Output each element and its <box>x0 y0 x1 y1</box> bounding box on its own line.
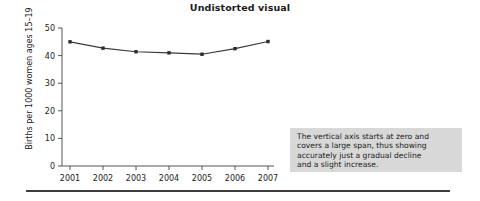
annotation-callout: The vertical axis starts at zero and cov… <box>290 128 462 172</box>
data-series-line <box>68 40 269 56</box>
y-tick-label: 20 <box>45 107 55 116</box>
data-point-marker <box>167 51 170 54</box>
x-tick-label: 2001 <box>60 174 80 183</box>
annotation-text: The vertical axis starts at zero and cov… <box>297 132 456 170</box>
y-tick-label: 50 <box>45 24 55 33</box>
bottom-divider <box>26 190 450 192</box>
data-point-marker <box>68 40 71 43</box>
x-axis: 2001200220032004200520062007 <box>60 166 278 183</box>
x-tick-label: 2005 <box>192 174 212 183</box>
data-point-marker <box>233 47 236 50</box>
y-tick-label: 30 <box>45 79 55 88</box>
y-tick-label: 10 <box>45 134 55 143</box>
data-point-marker <box>134 50 137 53</box>
x-tick-label: 2006 <box>225 174 245 183</box>
data-point-marker <box>266 40 269 43</box>
y-axis: 01020304050 <box>45 24 62 171</box>
data-point-marker <box>200 53 203 56</box>
x-tick-label: 2007 <box>258 174 278 183</box>
data-point-marker <box>101 46 104 49</box>
x-tick-label: 2002 <box>93 174 113 183</box>
y-tick-label: 40 <box>45 52 55 61</box>
x-tick-label: 2004 <box>159 174 179 183</box>
y-tick-label: 0 <box>50 162 55 171</box>
chart-figure: Undistorted visual Births per 1000 women… <box>0 0 480 201</box>
x-tick-label: 2003 <box>126 174 146 183</box>
